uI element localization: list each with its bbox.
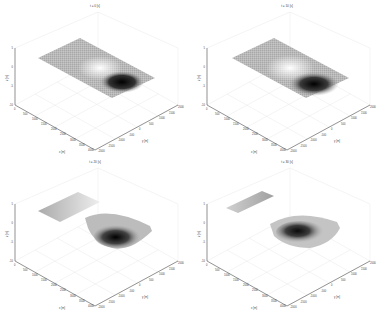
svg-text:0: 0 [206,263,208,267]
svg-text:2000: 2000 [370,261,376,265]
surface [38,38,155,98]
surface-plot-3: t = 20 [s] z [m] x [m] y [m] -10 -5 0 5 … [0,156,191,311]
svg-text:0: 0 [14,107,16,111]
z-axis-label: z [m] [197,231,201,237]
x-ticks: 0 500 1000 1500 2000 2500 3000 3500 4000 [14,263,94,308]
x-axis-label: x [m] [59,150,65,154]
z-ticks: -10 -5 0 5 [201,46,205,107]
z-axis-label: z [m] [197,75,201,81]
svg-text:0: 0 [204,221,206,225]
svg-text:-2000: -2000 [98,305,105,309]
svg-text:1500: 1500 [233,278,239,282]
y-axis-label: y [m] [142,295,148,299]
svg-text:-1000: -1000 [310,294,317,298]
svg-text:1500: 1500 [361,111,367,115]
surface-plot-1: t = 0 [s] z [m] x [m] y [m] -10 -5 0 5 0… [0,0,191,155]
svg-text:1000: 1000 [351,272,357,276]
svg-text:-10: -10 [9,103,13,107]
x-ticks: 0 500 1000 1500 2000 2500 3000 3500 4000 [14,107,94,152]
z-axis-label: z [m] [5,75,9,81]
svg-text:2500: 2500 [252,288,258,292]
svg-text:0: 0 [204,65,206,69]
svg-text:4000: 4000 [280,304,286,308]
svg-text:500: 500 [23,268,28,272]
svg-text:-1500: -1500 [300,300,307,304]
svg-text:0: 0 [331,127,333,131]
svg-text:-500: -500 [321,289,327,293]
svg-text:-1000: -1000 [118,138,125,142]
svg-text:500: 500 [341,278,346,282]
x-axis-label: x [m] [251,150,257,154]
svg-text:3000: 3000 [70,294,76,298]
plot-canvas: t = 0 [s] z [m] x [m] y [m] -10 -5 0 5 0… [0,0,191,155]
svg-text:3500: 3500 [79,299,85,303]
svg-text:5: 5 [12,202,14,206]
svg-text:3500: 3500 [271,143,277,147]
svg-text:1000: 1000 [351,116,357,120]
plot-canvas: t = 20 [s] z [m] x [m] y [m] -10 -5 0 5 … [0,156,191,311]
svg-text:2000: 2000 [51,127,57,131]
plot-title: t = 20 [s] [89,160,101,164]
x-axis-label: x [m] [59,306,65,310]
svg-text:5: 5 [12,46,14,50]
svg-text:1000: 1000 [224,273,230,277]
surface-plot-4: t = 30 [s] z [m] x [m] y [m] -10 -5 0 5 … [192,156,383,311]
svg-text:-1000: -1000 [310,138,317,142]
svg-text:0: 0 [139,283,141,287]
x-axis-label: x [m] [251,306,257,310]
surface [38,192,152,249]
plot-canvas: t = 30 [s] z [m] x [m] y [m] -10 -5 0 5 … [192,156,383,311]
svg-text:-2000: -2000 [290,149,297,153]
plot-canvas: t = 10 [s] z [m] x [m] y [m] -10 -5 0 5 … [192,0,383,155]
svg-text:-10: -10 [201,259,205,263]
svg-text:5: 5 [204,202,206,206]
plot-title: t = 30 [s] [281,160,293,164]
svg-text:-5: -5 [203,240,206,244]
z-ticks: -10 -5 0 5 [201,202,205,263]
svg-text:500: 500 [149,122,154,126]
svg-text:3500: 3500 [79,143,85,147]
figure: t = 0 [s] z [m] x [m] y [m] -10 -5 0 5 0… [0,0,383,311]
surface [232,38,349,98]
z-ticks: -10 -5 0 5 [9,202,13,263]
svg-text:500: 500 [215,268,220,272]
svg-text:-1500: -1500 [108,300,115,304]
svg-text:500: 500 [341,122,346,126]
svg-text:0: 0 [12,65,14,69]
plot-title: t = 0 [s] [90,4,100,8]
svg-text:-2000: -2000 [290,305,297,309]
svg-text:1500: 1500 [169,267,175,271]
svg-text:1500: 1500 [41,278,47,282]
surface [226,191,340,248]
z-axis-label: z [m] [5,231,9,237]
svg-text:4000: 4000 [280,148,286,152]
svg-text:4000: 4000 [88,148,94,152]
svg-text:3000: 3000 [70,138,76,142]
svg-text:1000: 1000 [159,116,165,120]
svg-text:3000: 3000 [262,138,268,142]
svg-text:2000: 2000 [243,283,249,287]
svg-text:-10: -10 [9,259,13,263]
svg-text:500: 500 [149,278,154,282]
svg-text:-500: -500 [129,133,135,137]
svg-text:-2000: -2000 [98,149,105,153]
svg-text:0: 0 [14,263,16,267]
svg-text:-5: -5 [11,240,14,244]
svg-text:1000: 1000 [32,273,38,277]
z-ticks: -10 -5 0 5 [9,46,13,107]
svg-text:4000: 4000 [88,304,94,308]
svg-text:1000: 1000 [224,117,230,121]
surface-plot-2: t = 10 [s] z [m] x [m] y [m] -10 -5 0 5 … [192,0,383,155]
svg-text:500: 500 [23,112,28,116]
y-axis-label: y [m] [334,139,340,143]
svg-text:-1500: -1500 [300,144,307,148]
svg-text:0: 0 [139,127,141,131]
svg-text:2000: 2000 [51,283,57,287]
svg-text:5: 5 [204,46,206,50]
svg-text:2500: 2500 [60,132,66,136]
plot-title: t = 10 [s] [281,4,293,8]
y-axis-label: y [m] [334,295,340,299]
svg-text:-5: -5 [203,84,206,88]
svg-text:-500: -500 [321,133,327,137]
svg-text:-1500: -1500 [108,144,115,148]
